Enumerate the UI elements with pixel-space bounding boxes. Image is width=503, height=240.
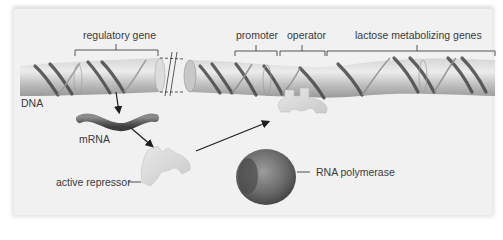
label-mrna: mRNA: [79, 133, 110, 145]
label-lactose-metabolizing-genes: lactose metabolizing genes: [355, 29, 482, 41]
dna-right-segment: [184, 58, 495, 98]
label-operator: operator: [287, 29, 326, 41]
dna-left-segment: [20, 58, 165, 96]
label-rna-polymerase: RNA polymerase: [316, 166, 395, 178]
label-dna: DNA: [21, 97, 43, 109]
label-active-repressor: active repressor: [56, 176, 131, 188]
label-promoter: promoter: [236, 29, 278, 41]
region-brackets: [75, 44, 495, 56]
mrna-strand: [80, 117, 155, 127]
label-regulatory-gene: regulatory gene: [83, 29, 156, 41]
rna-polymerase-shape: [236, 149, 296, 205]
free-active-repressor: [141, 146, 190, 186]
